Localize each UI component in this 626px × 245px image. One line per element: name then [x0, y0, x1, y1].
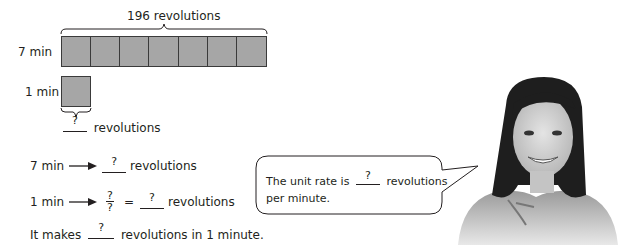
answer-blank: ? [356, 172, 380, 185]
conclusion: It makes ? revolutions in 1 minute. [30, 225, 264, 242]
tape-cell [62, 37, 91, 66]
answer-blank: ? [102, 159, 126, 173]
tape-cell [120, 37, 149, 66]
row-7min-label: 7 min [18, 45, 52, 59]
top-brace-icon [60, 22, 268, 36]
equals-sign: = [124, 195, 134, 209]
tape-cell [208, 37, 237, 66]
arrow-right-icon [68, 161, 98, 171]
answer-blank: ? [63, 118, 87, 132]
fraction: ? ? [106, 190, 114, 213]
unit-label: revolutions [168, 195, 235, 209]
tape-cell [149, 37, 178, 66]
step-left: 7 min [30, 159, 64, 173]
answer-blank: ? [88, 225, 114, 239]
unit-label: revolutions [130, 159, 197, 173]
step-1min: 1 min ? ? = ? revolutions [30, 190, 235, 213]
answer-blank: ? [140, 195, 164, 209]
step-7min: 7 min ? revolutions [30, 159, 197, 173]
unit-label: revolutions [94, 121, 161, 135]
student-photo [448, 75, 626, 245]
tape-7-minutes [61, 36, 267, 67]
tape-cell [237, 37, 266, 66]
row-1min-label: 1 min [25, 85, 59, 99]
arrow-right-icon [68, 197, 98, 207]
tape-cell [179, 37, 208, 66]
speech-bubble-text: The unit rate is ? revolutions per minut… [266, 172, 448, 207]
total-label: 196 revolutions [127, 9, 220, 23]
tape-cell [91, 37, 120, 66]
step-left: 1 min [30, 195, 64, 209]
unknown-1min: ? revolutions [63, 118, 161, 135]
tape-1-minute [61, 76, 91, 107]
